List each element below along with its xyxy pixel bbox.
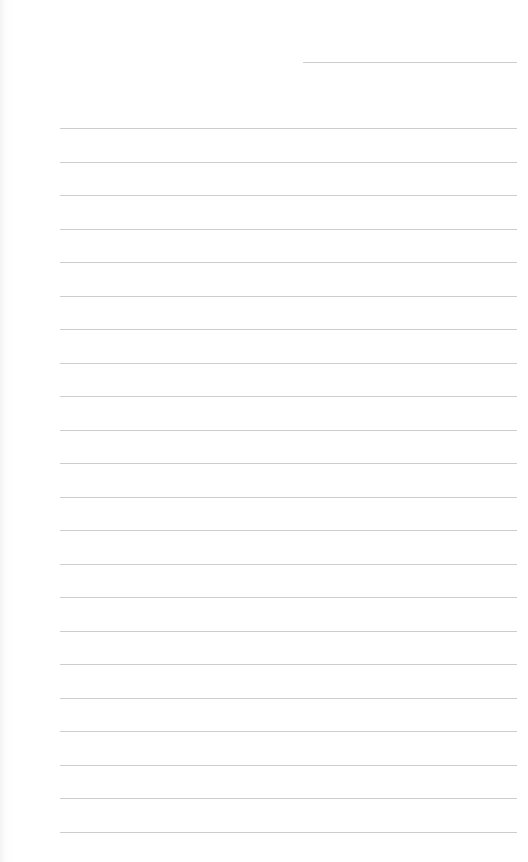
ruled-line — [60, 296, 517, 297]
ruled-line — [60, 128, 517, 129]
ruled-line — [60, 430, 517, 431]
ruled-line — [60, 463, 517, 464]
ruled-line — [60, 195, 517, 196]
ruled-line — [60, 798, 517, 799]
ruled-line — [60, 664, 517, 665]
ruled-line — [60, 229, 517, 230]
ruled-lines-area — [60, 0, 517, 862]
ruled-line — [60, 497, 517, 498]
ruled-line — [60, 564, 517, 565]
ruled-line — [60, 396, 517, 397]
ruled-line — [60, 832, 517, 833]
ruled-line — [60, 765, 517, 766]
lined-page — [0, 0, 528, 862]
ruled-line — [60, 731, 517, 732]
ruled-line — [60, 363, 517, 364]
ruled-line — [60, 530, 517, 531]
ruled-line — [60, 262, 517, 263]
ruled-line — [60, 597, 517, 598]
ruled-line — [60, 329, 517, 330]
ruled-line — [60, 162, 517, 163]
ruled-line — [60, 698, 517, 699]
ruled-line — [60, 631, 517, 632]
